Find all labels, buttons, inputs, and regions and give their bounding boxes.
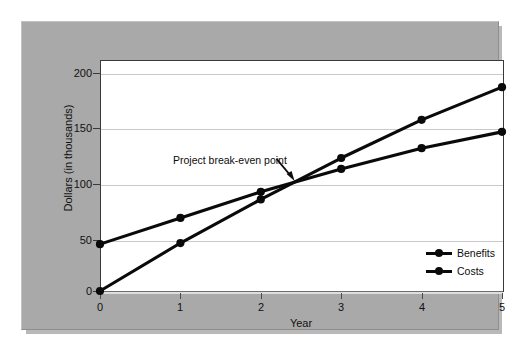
legend: Benefits Costs [426,244,495,280]
legend-label-costs: Costs [457,265,484,277]
line-costs [100,132,502,244]
legend-marker-costs-icon [426,265,452,277]
data-point-costs-5 [498,128,506,136]
data-point-costs-2 [257,188,265,196]
legend-item-costs[interactable]: Costs [426,262,495,280]
data-point-costs-4 [418,144,426,152]
data-point-costs-1 [176,214,184,222]
data-point-costs-0 [96,240,104,248]
data-point-benefits-1 [176,239,184,247]
data-point-benefits-2 [257,195,265,203]
legend-marker-benefits-icon [426,247,452,259]
chart-panel: 200 150 100 50 0 0 1 2 3 4 5 Dol [21,21,499,330]
markers-costs [96,128,506,248]
data-point-costs-3 [337,165,345,173]
series-overlay [22,22,523,346]
data-point-benefits-0 [96,287,104,295]
legend-label-benefits: Benefits [457,247,495,259]
data-point-benefits-4 [418,116,426,124]
data-point-benefits-5 [498,83,506,91]
data-point-benefits-3 [337,154,345,162]
figure-container: 200 150 100 50 0 0 1 2 3 4 5 Dol [0,0,523,346]
annotation-label: Project break-even point [173,154,287,166]
legend-item-benefits[interactable]: Benefits [426,244,495,262]
